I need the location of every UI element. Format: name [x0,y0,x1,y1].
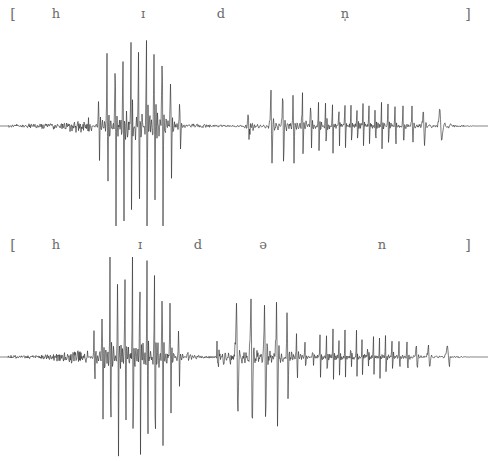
waveform-trace [0,257,488,457]
ipa-segment-i: ɪ [141,6,145,22]
ipa-segment-d: d [194,237,202,253]
waveform-plot-top [0,26,488,226]
waveform-panel-top: [hɪdn̩] [0,0,488,230]
waveform-path [0,40,488,226]
ipa-open-bracket: [ [10,6,15,22]
ipa-segment-schwa: ə [259,237,267,253]
waveform-trace [0,26,488,226]
ipa-segment-h: h [52,237,60,253]
ipa-close-bracket: ] [465,6,470,22]
ipa-segment-n: n [378,237,386,253]
waveform-figure: [hɪdn̩] [hɪdən] [0,0,488,461]
ipa-segment-i: ɪ [138,237,142,253]
ipa-segment-d: d [217,6,225,22]
waveform-path [0,257,488,456]
ipa-segment-h: h [52,6,60,22]
ipa-close-bracket: ] [465,237,470,253]
waveform-panel-bottom: [hɪdən] [0,231,488,461]
ipa-segment-syllabic-n: n̩ [341,6,349,22]
waveform-plot-bottom [0,257,488,457]
ipa-open-bracket: [ [10,237,15,253]
